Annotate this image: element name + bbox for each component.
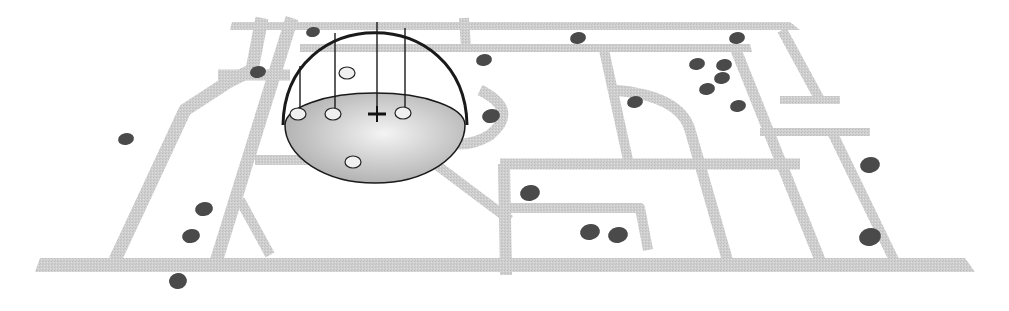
roads-layer: [35, 18, 975, 275]
poi-in-range-marker: [290, 108, 306, 120]
poi-marker: [475, 52, 493, 67]
road-segment: [604, 50, 628, 160]
poi-in-range-marker: [325, 108, 341, 120]
road-segment: [612, 90, 728, 262]
poi-marker: [194, 200, 215, 217]
poi-marker: [579, 222, 602, 242]
poi-in-range-marker: [339, 67, 355, 79]
poi-marker: [607, 225, 630, 245]
poi-marker: [168, 271, 189, 290]
poi-marker: [569, 30, 587, 45]
poi-marker: [519, 183, 542, 203]
poi-marker: [117, 131, 135, 146]
road-segment: [430, 160, 510, 220]
street-map: [0, 0, 1009, 311]
poi-marker: [688, 56, 706, 71]
poi-in-range-marker: [345, 156, 361, 168]
road-segment: [464, 18, 466, 48]
poi-marker: [181, 227, 202, 244]
poi-marker: [728, 30, 746, 45]
poi-marker: [729, 98, 747, 113]
poi-marker: [859, 155, 882, 175]
poi-marker: [698, 81, 716, 96]
map-figure: [0, 0, 1009, 311]
poi-marker: [713, 70, 731, 85]
road-segment: [504, 208, 648, 250]
road-segment: [504, 164, 506, 275]
road-segment: [782, 30, 820, 100]
poi-marker: [715, 57, 733, 72]
road-segment: [240, 200, 270, 255]
poi-in-range-marker: [395, 107, 411, 119]
road-segment: [115, 18, 262, 260]
road-top-second: [300, 44, 752, 52]
road-top-main-2: [430, 22, 800, 30]
